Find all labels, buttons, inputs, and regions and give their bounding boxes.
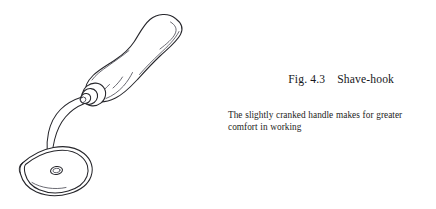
figure-name-label: Shave-hook bbox=[337, 73, 394, 86]
figure-caption-text: The slightly cranked handle makes for gr… bbox=[228, 110, 432, 133]
shank-edge-lower bbox=[52, 104, 84, 154]
blade-head-group bbox=[19, 147, 92, 196]
figure-number-label: Fig. 4.3 bbox=[288, 73, 325, 86]
shave-hook-illustration bbox=[8, 4, 208, 204]
figure-title: Fig. 4.3Shave-hook bbox=[228, 56, 432, 104]
shank-group bbox=[47, 97, 84, 153]
figure-page: Fig. 4.3Shave-hook The slightly cranked … bbox=[0, 0, 436, 209]
shank-edge-upper bbox=[47, 97, 82, 152]
shave-hook-drawing bbox=[8, 4, 208, 204]
figure-caption-block: Fig. 4.3Shave-hook The slightly cranked … bbox=[228, 56, 432, 133]
